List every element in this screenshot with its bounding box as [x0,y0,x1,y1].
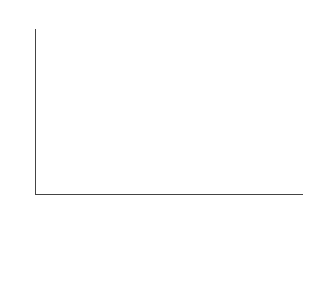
y-axis [35,29,36,195]
bar-chart [0,0,318,286]
x-axis [35,194,303,195]
